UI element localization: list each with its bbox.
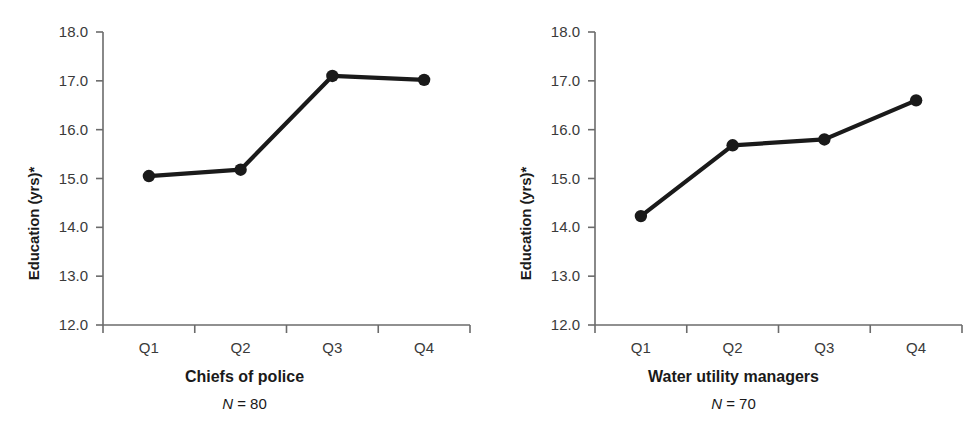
x-tick-label-q4: Q4 <box>886 339 946 356</box>
y-tick-label: 16.0 <box>40 121 88 138</box>
sample-size-symbol: N <box>711 395 722 412</box>
y-tick-label: 15.0 <box>532 170 580 187</box>
y-tick-label: 16.0 <box>532 121 580 138</box>
data-point-q1 <box>635 210 647 222</box>
data-point-q4 <box>418 74 430 86</box>
y-tick-label: 14.0 <box>532 218 580 235</box>
data-point-q4 <box>910 94 922 106</box>
y-tick-marks <box>96 32 103 325</box>
data-line-chiefs-of-police <box>149 76 424 176</box>
x-tick-label-q3: Q3 <box>302 339 362 356</box>
y-tick-marks <box>588 32 595 325</box>
y-tick-label: 18.0 <box>40 23 88 40</box>
data-point-q3 <box>326 70 338 82</box>
y-tick-label: 15.0 <box>40 170 88 187</box>
data-point-q3 <box>818 133 830 145</box>
data-point-q2 <box>234 164 246 176</box>
chart-panel-chiefs-of-police: Education (yrs)* 18.017.016.015.014.013.… <box>0 0 489 447</box>
axes-chiefs-of-police <box>103 32 470 325</box>
y-tick-label: 13.0 <box>40 267 88 284</box>
y-tick-label: 17.0 <box>40 72 88 89</box>
x-tick-marks <box>595 325 962 333</box>
data-markers-chiefs-of-police <box>143 70 431 183</box>
x-tick-label-q4: Q4 <box>394 339 454 356</box>
data-line-water-utility-managers <box>641 100 916 216</box>
sample-size-symbol: N <box>222 395 233 412</box>
y-tick-label: 14.0 <box>40 218 88 235</box>
data-markers-water-utility-managers <box>635 94 923 222</box>
panel-caption: Water utility managers <box>489 368 978 386</box>
x-tick-label-q2: Q2 <box>211 339 271 356</box>
y-tick-label: 12.0 <box>40 316 88 333</box>
figure-two-line-charts: Education (yrs)* 18.017.016.015.014.013.… <box>0 0 978 447</box>
y-tick-label: 12.0 <box>532 316 580 333</box>
y-tick-label: 18.0 <box>532 23 580 40</box>
chart-panel-water-utility-managers: Education (yrs)* 18.017.016.015.014.013.… <box>489 0 978 447</box>
y-tick-label: 17.0 <box>532 72 580 89</box>
panel-sample-size: N = 70 <box>489 395 978 412</box>
sample-size-value: = 80 <box>237 395 267 412</box>
sample-size-value: = 70 <box>726 395 756 412</box>
panel-sample-size: N = 80 <box>0 395 489 412</box>
x-tick-label-q3: Q3 <box>794 339 854 356</box>
y-tick-label: 13.0 <box>532 267 580 284</box>
x-tick-marks <box>103 325 470 333</box>
x-tick-label-q2: Q2 <box>703 339 763 356</box>
x-tick-label-q1: Q1 <box>119 339 179 356</box>
panel-caption: Chiefs of police <box>0 368 489 386</box>
data-point-q1 <box>143 170 155 182</box>
data-point-q2 <box>726 139 738 151</box>
x-tick-label-q1: Q1 <box>611 339 671 356</box>
axes-water-utility-managers <box>595 32 962 325</box>
